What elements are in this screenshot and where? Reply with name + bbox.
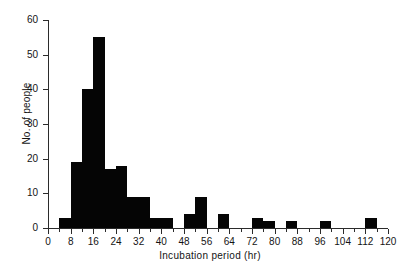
y-tick xyxy=(43,124,49,125)
histogram-bar xyxy=(195,197,206,228)
x-tick-minor xyxy=(377,229,378,232)
x-tick-minor xyxy=(59,229,60,232)
x-tick-minor xyxy=(354,229,355,232)
x-tick-major xyxy=(388,229,389,234)
x-tick-major xyxy=(161,229,162,234)
histogram-bar xyxy=(127,197,138,228)
x-tick-minor xyxy=(173,229,174,232)
x-axis-title: Incubation period (hr) xyxy=(60,250,360,261)
x-tick-major xyxy=(48,229,49,234)
histogram-bar xyxy=(218,214,229,228)
histogram-bar xyxy=(161,218,172,228)
histogram-bar xyxy=(139,197,150,228)
x-tick-major xyxy=(297,229,298,234)
histogram-bar xyxy=(286,221,297,228)
histogram-bar xyxy=(365,218,376,228)
histogram-bar xyxy=(252,218,263,228)
x-tick-major xyxy=(116,229,117,234)
histogram-bar xyxy=(59,218,70,228)
histogram-bar xyxy=(105,169,116,228)
x-tick-minor xyxy=(309,229,310,232)
x-tick-minor xyxy=(218,229,219,232)
histogram-bar xyxy=(150,218,161,228)
x-tick-major xyxy=(93,229,94,234)
y-tick-label: 60 xyxy=(0,15,38,25)
histogram-figure: No. of people Incubation period (hr) 010… xyxy=(0,0,397,273)
histogram-bar xyxy=(184,214,195,228)
x-tick-minor xyxy=(82,229,83,232)
x-tick-minor xyxy=(195,229,196,232)
y-tick-label: 30 xyxy=(0,119,38,129)
x-tick-minor xyxy=(150,229,151,232)
y-tick xyxy=(43,159,49,160)
x-tick-minor xyxy=(241,229,242,232)
x-tick-major xyxy=(184,229,185,234)
histogram-bar xyxy=(263,221,274,228)
x-tick-major xyxy=(275,229,276,234)
histogram-bar xyxy=(93,37,104,228)
x-tick-label: 120 xyxy=(373,236,397,247)
x-tick-minor xyxy=(105,229,106,232)
x-tick-major xyxy=(252,229,253,234)
x-tick-major xyxy=(207,229,208,234)
x-tick-major xyxy=(320,229,321,234)
x-tick-major xyxy=(139,229,140,234)
y-tick-label: 50 xyxy=(0,50,38,60)
y-tick-label: 40 xyxy=(0,84,38,94)
plot-area: 0102030405060 08162432404856647280889610… xyxy=(48,20,388,228)
histogram-bar xyxy=(320,221,331,228)
histogram-bar xyxy=(82,89,93,228)
x-tick-major xyxy=(343,229,344,234)
histogram-bar xyxy=(71,162,82,228)
x-tick-minor xyxy=(263,229,264,232)
x-tick-major xyxy=(71,229,72,234)
x-tick-minor xyxy=(286,229,287,232)
x-tick-minor xyxy=(331,229,332,232)
y-tick xyxy=(43,55,49,56)
x-tick-major xyxy=(229,229,230,234)
x-tick-minor xyxy=(127,229,128,232)
y-tick xyxy=(43,20,49,21)
x-tick-major xyxy=(365,229,366,234)
histogram-bar xyxy=(116,166,127,228)
y-tick-label: 20 xyxy=(0,154,38,164)
y-tick xyxy=(43,193,49,194)
y-tick-label: 10 xyxy=(0,188,38,198)
y-tick-label: 0 xyxy=(0,223,38,233)
y-tick xyxy=(43,89,49,90)
